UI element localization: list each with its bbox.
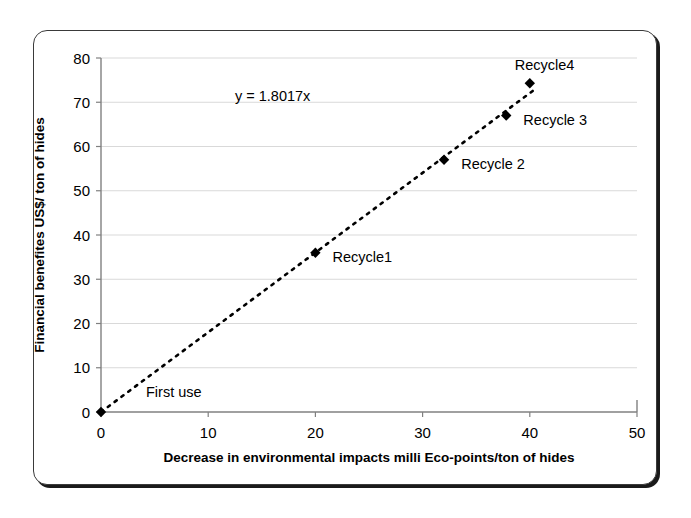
label-first-use: First use	[146, 384, 202, 400]
label-recycle3: Recycle 3	[523, 112, 587, 128]
label-recycle2: Recycle 2	[461, 156, 525, 172]
y-tick-label-10: 10	[73, 359, 90, 376]
x-tick-label-40: 40	[521, 424, 538, 441]
y-tick-label-20: 20	[73, 315, 90, 332]
scatter-chart: 01020304050607080 01020304050 y = 1.8017…	[0, 0, 691, 518]
y-tick-label-0: 0	[82, 404, 90, 421]
x-tick-label-0: 0	[97, 424, 105, 441]
figure-root: 01020304050607080 01020304050 y = 1.8017…	[0, 0, 691, 518]
y-axis-title: Financial benefites US$/ ton of hides	[32, 117, 47, 353]
x-axis-tick-labels: 01020304050	[97, 424, 646, 441]
y-tick-label-80: 80	[73, 50, 90, 67]
y-tick-label-60: 60	[73, 138, 90, 155]
data-point-2	[439, 155, 449, 165]
point-annotations: y = 1.8017xFirst useRecycle1Recycle 2Rec…	[146, 57, 587, 400]
y-tick-label-70: 70	[73, 94, 90, 111]
label-recycle4: Recycle4	[515, 57, 575, 73]
y-tick-label-40: 40	[73, 227, 90, 244]
equation: y = 1.8017x	[235, 88, 311, 104]
plot-stage: 01020304050607080 01020304050 y = 1.8017…	[0, 0, 691, 518]
x-tick-label-10: 10	[200, 424, 217, 441]
y-tick-label-50: 50	[73, 182, 90, 199]
x-tick-label-20: 20	[307, 424, 324, 441]
y-tick-label-30: 30	[73, 271, 90, 288]
x-tick-label-30: 30	[414, 424, 431, 441]
y-axis-tick-labels: 01020304050607080	[73, 50, 90, 421]
data-point-0	[96, 407, 106, 417]
data-point-4	[525, 78, 535, 88]
label-recycle1: Recycle1	[333, 249, 393, 265]
x-axis-title: Decrease in environmental impacts milli …	[163, 450, 574, 465]
x-tick-label-50: 50	[629, 424, 646, 441]
